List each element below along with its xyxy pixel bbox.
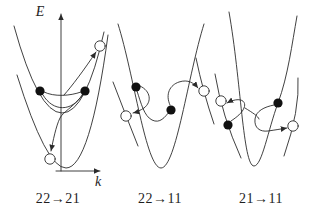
scatter-arrow-up-to-subband2	[64, 52, 96, 95]
subband-2-parabola	[14, 26, 104, 113]
transition-label-22-11: 22→11	[138, 191, 182, 206]
final-state-open-circle	[121, 111, 131, 121]
final-state-open-circle	[45, 154, 55, 164]
panel-22-11: 22→11	[113, 24, 214, 206]
momentum-axis-label: k	[95, 174, 102, 189]
final-state-open-circle	[288, 121, 298, 131]
scatter-arrow-loop-to-subband1	[255, 105, 287, 131]
panel-22-21: E k 22→21	[14, 4, 108, 206]
scatter-arrow-down-to-subband1	[51, 94, 84, 151]
interaction-curve-upper	[44, 92, 81, 95]
transition-label-21-11: 21→11	[239, 191, 283, 206]
scatter-arrow-loop-to-subband1	[168, 81, 198, 105]
final-state-open-circle	[199, 86, 209, 96]
intersubband-scattering-figure: E k 22→21 22→11	[0, 0, 317, 214]
final-state-open-circle	[216, 96, 226, 106]
electron-filled-circle	[35, 86, 44, 95]
energy-axis-label: E	[35, 4, 45, 19]
electron-filled-circle	[131, 82, 140, 91]
subband-2-parabola	[118, 24, 204, 168]
subband-1-right-branch	[284, 78, 298, 156]
panel-21-11: 21→11	[215, 12, 298, 206]
diagram-canvas: E k 22→21 22→11	[0, 0, 317, 214]
electron-filled-circle	[273, 98, 282, 107]
subband-2-parabola	[229, 12, 297, 166]
transition-label-22-21: 22→21	[36, 191, 81, 206]
electron-filled-circle	[166, 105, 175, 114]
final-state-open-circle	[95, 41, 105, 51]
interaction-curve	[137, 91, 169, 121]
electron-filled-circle	[80, 86, 89, 95]
electron-filled-circle	[223, 120, 232, 129]
